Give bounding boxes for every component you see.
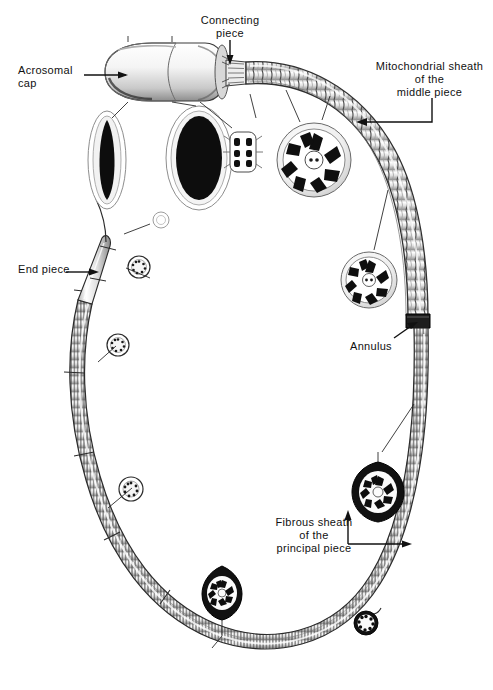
end-piece-cross-section-c <box>153 212 169 228</box>
spermatozoon-diagram <box>0 0 493 690</box>
connecting-piece-structure <box>222 56 246 88</box>
head-cross-section-frontal <box>166 106 232 210</box>
principal-piece-cross-section-small <box>354 611 378 635</box>
label-end-piece: End piece <box>18 263 70 276</box>
end-piece-cross-section-b <box>107 334 129 356</box>
middle-piece-cross-section-upper <box>277 123 351 197</box>
sperm-head <box>105 43 229 101</box>
middle-piece-structure <box>246 62 428 318</box>
middle-piece-cross-section-lower <box>341 252 397 308</box>
end-piece-structure <box>78 199 116 304</box>
label-fibrous-sheath: Fibrous sheath of the principal piece <box>262 516 366 555</box>
head-cross-section-sagittal <box>88 111 126 209</box>
label-mitochondrial-sheath: Mitochondrial sheath of the middle piece <box>366 60 493 99</box>
figure-page: Acrosomal cap Connecting piece Mitochond… <box>0 0 493 690</box>
label-connecting-piece: Connecting piece <box>189 14 271 40</box>
label-acrosomal-cap: Acrosomal cap <box>18 64 73 90</box>
principal-piece-cross-section-right <box>352 452 404 522</box>
label-annulus: Annulus <box>350 340 392 353</box>
end-piece-cross-section-a <box>128 256 150 278</box>
